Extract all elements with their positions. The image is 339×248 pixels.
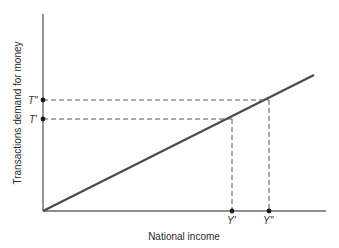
y-axis-title: Transactions demand for money (12, 41, 23, 184)
y-double-prime-dot (267, 209, 272, 214)
t-prime-label: T' (29, 114, 38, 125)
y-prime-dot (230, 209, 235, 214)
t-double-prime-dot (41, 98, 46, 103)
y-prime-label: Y' (227, 215, 237, 226)
transactions-demand-line (43, 75, 314, 211)
t-double-prime-label: T" (28, 95, 38, 106)
x-axis-title: National income (148, 231, 220, 242)
t-prime-dot (41, 117, 46, 122)
transactions-demand-diagram: T" T' Y' Y" National income Transactions… (0, 0, 339, 248)
y-double-prime-label: Y" (263, 215, 274, 226)
